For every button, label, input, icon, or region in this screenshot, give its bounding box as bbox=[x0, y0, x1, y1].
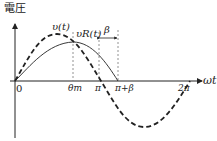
beta-label: β bbox=[104, 25, 110, 35]
tick-pi: π bbox=[95, 84, 101, 93]
y-axis-label: 電圧 bbox=[4, 3, 26, 14]
voltage-waveform-diagram: 電圧 ωt υ(t) υR(t) β 0 θm π π+β 2π bbox=[0, 0, 217, 141]
diagram-canvas bbox=[0, 0, 217, 141]
x-axis-label: ωt bbox=[203, 75, 216, 86]
tick-origin: 0 bbox=[16, 84, 22, 94]
tick-two-pi: 2π bbox=[178, 84, 190, 93]
vr-t-label: υR(t) bbox=[76, 29, 101, 39]
tick-theta-m: θm bbox=[68, 84, 82, 93]
tick-pi-plus-beta: π+β bbox=[115, 84, 134, 93]
vr-t-curve bbox=[15, 42, 118, 81]
v-t-label: υ(t) bbox=[52, 22, 70, 32]
